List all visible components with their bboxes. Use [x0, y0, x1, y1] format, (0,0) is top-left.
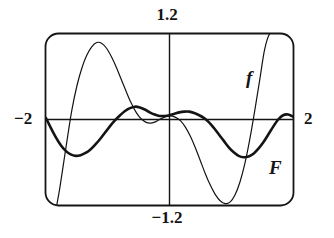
curve-label-f: f	[246, 68, 252, 87]
x-min-label: −2	[14, 110, 32, 127]
plot-svg	[0, 0, 334, 238]
y-max-label: 1.2	[0, 6, 334, 23]
graph-screenshot: 1.2 −1.2 −2 2 f F	[0, 0, 334, 238]
y-min-label: −1.2	[0, 209, 334, 226]
x-max-label: 2	[304, 110, 313, 127]
plot-area	[0, 0, 334, 238]
curve-label-F: F	[269, 158, 282, 177]
